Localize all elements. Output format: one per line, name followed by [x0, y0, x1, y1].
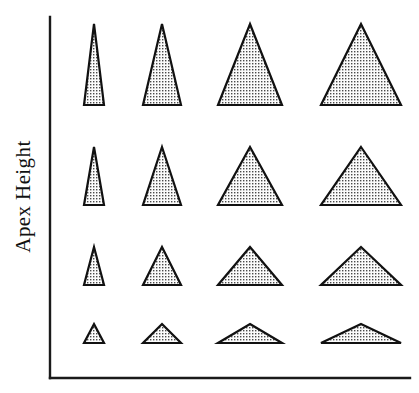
triangle-r1-c2	[143, 24, 181, 105]
triangle-r3-c3	[218, 247, 282, 285]
triangle-r2-c1	[84, 147, 104, 205]
triangle-r1-c4	[321, 24, 401, 105]
triangle-marks	[84, 24, 401, 343]
triangle-r2-c3	[218, 147, 282, 205]
triangle-r4-c1	[84, 324, 104, 343]
plot-area	[0, 0, 419, 393]
triangle-r1-c3	[218, 24, 282, 105]
triangle-r3-c1	[84, 247, 104, 285]
triangle-r1-c1	[84, 24, 104, 105]
triangle-r3-c4	[321, 247, 401, 285]
triangle-r2-c4	[321, 147, 401, 205]
triangle-r2-c2	[143, 147, 181, 205]
triangle-glyph-figure: Apex Height	[0, 0, 419, 393]
triangle-r3-c2	[143, 247, 181, 285]
triangle-r4-c4	[321, 324, 401, 343]
triangle-r4-c3	[218, 324, 282, 343]
y-axis-label: Apex Height	[0, 0, 46, 393]
triangle-r4-c2	[143, 324, 181, 343]
